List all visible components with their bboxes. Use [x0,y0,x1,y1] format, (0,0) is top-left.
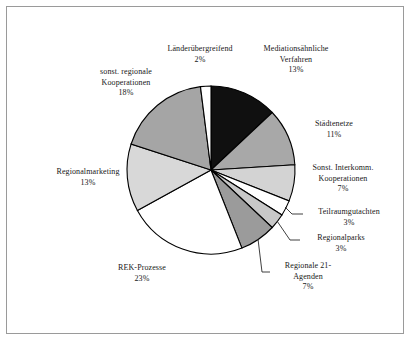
label-sonst-regionale-line2: Kooperationen [75,78,177,89]
leader-line-teilraumgutachten [285,207,303,214]
label-laenderuebergreifend-value: 2% [152,55,248,66]
label-laenderuebergreifend-name: Länderübergreifend [152,44,248,55]
label-mediation-value: 13% [242,65,350,76]
label-staedtenetze: Städtenetze 11% [296,119,372,140]
label-interkomm-value: 7% [292,184,394,195]
label-rek-name: REK-Prozesse [92,263,192,274]
label-laenderuebergreifend: Länderübergreifend 2% [152,44,248,65]
label-regionalparks-name: Regionalparks [300,233,382,244]
label-sonst-regionale-kooperationen: sonst. regionale Kooperationen 18% [75,67,177,99]
label-teilraumgutachten-value: 3% [303,218,395,229]
label-regionalmarketing-value: 13% [33,178,143,189]
label-sonst-interkomm-kooperationen: Sonst. Interkomm. Kooperationen 7% [292,163,394,195]
pie-slices [127,86,295,254]
label-mediation-line1: Mediationsähnliche [242,44,350,55]
label-teilraumgutachten-name: Teilraumgutachten [303,207,395,218]
chart-area: Länderübergreifend 2% Mediationsähnliche… [0,0,412,342]
pie-chart-figure: Länderübergreifend 2% Mediationsähnliche… [0,0,412,342]
label-mediationsaehnliche-verfahren: Mediationsähnliche Verfahren 13% [242,44,350,76]
label-regionale-21-agenden: Regionale 21- Agenden 7% [267,261,349,293]
label-agenda21-value: 7% [267,282,349,293]
label-interkomm-line2: Kooperationen [292,174,394,185]
leader-line-regionalparks [277,221,300,240]
label-teilraumgutachten: Teilraumgutachten 3% [303,207,395,228]
label-staedtenetze-name: Städtenetze [296,119,372,130]
label-rek-value: 23% [92,274,192,285]
label-agenda21-line2: Agenden [267,272,349,283]
label-interkomm-line1: Sonst. Interkomm. [292,163,394,174]
label-mediation-line2: Verfahren [242,55,350,66]
label-regionalparks-value: 3% [300,244,382,255]
label-staedtenetze-value: 11% [296,130,372,141]
label-rek-prozesse: REK-Prozesse 23% [92,263,192,284]
label-regionalmarketing-name: Regionalmarketing [33,167,143,178]
label-sonst-regionale-value: 18% [75,88,177,99]
label-sonst-regionale-line1: sonst. regionale [75,67,177,78]
label-regionalmarketing: Regionalmarketing 13% [33,167,143,188]
label-regionalparks: Regionalparks 3% [300,233,382,254]
label-agenda21-line1: Regionale 21- [267,261,349,272]
